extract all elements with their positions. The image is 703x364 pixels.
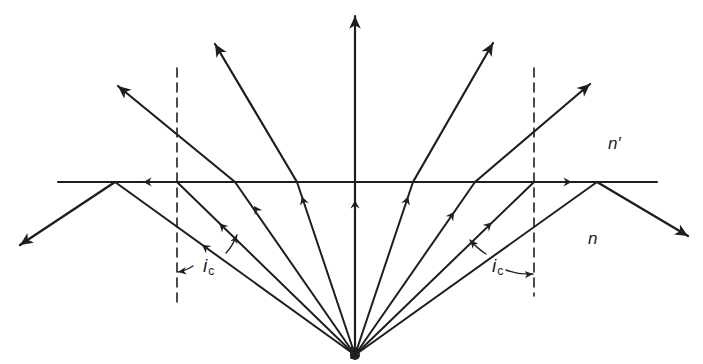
label-upper-medium: n′	[608, 134, 621, 154]
critical-angle-subscript: c	[208, 264, 214, 278]
critical-angle-arc-right-lower	[506, 270, 533, 274]
critical-angle-symbol: i	[203, 255, 207, 276]
ray-refracted-right-2	[475, 84, 590, 182]
ray-incident-reflected-left	[115, 182, 355, 355]
ray-incident-critical-right	[355, 182, 534, 355]
ray-incident-refracted-left-2	[235, 182, 355, 355]
ray-reflected-right	[597, 182, 688, 236]
ray-incident-refracted-right-2	[355, 182, 475, 355]
critical-angle-arc-right-upper	[470, 240, 486, 254]
ray-incident-refracted-left-1	[297, 182, 355, 355]
ray-incident-reflected-right	[355, 182, 597, 355]
label-critical-angle-right: ic	[492, 255, 503, 278]
ray-refracted-right-1	[413, 43, 493, 182]
critical-angle-arc-left-lower	[178, 266, 193, 272]
label-critical-angle-left: ic	[203, 255, 214, 278]
tir-diagram	[0, 0, 703, 364]
label-source-point: B	[349, 345, 360, 363]
ray-reflected-left	[20, 182, 115, 245]
critical-angle-arc-left-upper	[226, 235, 237, 253]
ray-refracted-left-1	[215, 44, 297, 182]
ray-incident-refracted-right-1	[355, 182, 413, 355]
label-lower-medium: n	[588, 229, 597, 249]
critical-angle-subscript: c	[497, 264, 503, 278]
critical-angle-symbol: i	[492, 255, 496, 276]
